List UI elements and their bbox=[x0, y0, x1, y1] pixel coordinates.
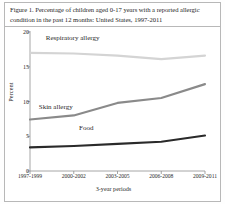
x-tick-label: 2006-2008 bbox=[138, 173, 184, 179]
x-tick-label: 2009-2011 bbox=[182, 173, 225, 179]
x-tick-label: 1997-1999 bbox=[7, 173, 53, 179]
series-label: Food bbox=[79, 125, 93, 132]
figure-container: Figure 1. Percentage of children aged 0-… bbox=[0, 0, 225, 204]
series-label: Skin allergy bbox=[39, 104, 73, 111]
y-tick-label: 5 bbox=[15, 133, 29, 139]
series-lines bbox=[30, 53, 205, 148]
series-line bbox=[30, 53, 205, 59]
figure-caption-box: Figure 1. Percentage of children aged 0-… bbox=[4, 2, 221, 27]
chart-panel: 05101520 Percent 1997-19992000-20022003-… bbox=[4, 26, 221, 202]
y-axis-title: Percent bbox=[8, 70, 14, 114]
x-tick-label: 2000-2002 bbox=[51, 173, 97, 179]
y-tick-label: 20 bbox=[15, 29, 29, 35]
x-axis-title: 3-year periods bbox=[5, 185, 222, 192]
series-line bbox=[30, 136, 205, 148]
figure-caption-text: Figure 1. Percentage of children aged 0-… bbox=[10, 5, 216, 26]
y-tick-label: 10 bbox=[15, 99, 29, 105]
series-label: Respiratory allergy bbox=[46, 35, 100, 42]
x-axis-ticks: 1997-19992000-20022003-20052006-20082009… bbox=[30, 173, 205, 185]
x-tick-label: 2003-2005 bbox=[95, 173, 141, 179]
y-tick-label: 15 bbox=[15, 64, 29, 70]
series-line bbox=[30, 84, 205, 119]
